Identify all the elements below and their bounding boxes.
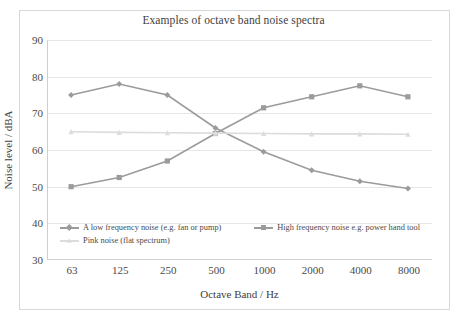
data-point-marker xyxy=(69,184,74,189)
data-point-marker xyxy=(357,178,363,184)
data-point-marker xyxy=(116,81,122,87)
legend-label-pink-noise: Pink noise (flat spectrum) xyxy=(83,236,170,245)
x-tick-label: 250 xyxy=(160,264,177,276)
y-tick-label: 30 xyxy=(32,254,43,266)
y-tick-label: 80 xyxy=(32,71,43,83)
data-point-marker xyxy=(309,94,314,99)
x-tick-label: 4000 xyxy=(350,264,372,276)
y-tick-label: 40 xyxy=(32,217,43,229)
x-tick-label: 1000 xyxy=(254,264,276,276)
data-point-marker xyxy=(309,167,315,173)
series-line xyxy=(71,132,408,135)
legend-line-marker-icon xyxy=(254,223,273,232)
x-tick-label: 8000 xyxy=(398,264,420,276)
chart-legend: A low frequency noise (e.g. fan or pump)… xyxy=(60,221,420,247)
legend-item-low-frequency[interactable]: A low frequency noise (e.g. fan or pump) xyxy=(60,223,254,232)
legend-item-pink-noise[interactable]: Pink noise (flat spectrum) xyxy=(60,236,260,245)
legend-row-2: Pink noise (flat spectrum) xyxy=(60,234,420,247)
legend-item-high-frequency[interactable]: High frequency noise e.g. power hand too… xyxy=(254,223,420,232)
x-tick-label: 500 xyxy=(208,264,225,276)
data-point-marker xyxy=(165,158,170,163)
series-3 xyxy=(68,129,410,137)
legend-line-marker-icon xyxy=(60,236,79,245)
x-tick-label: 63 xyxy=(67,264,78,276)
y-axis-title: Noise level / dBA xyxy=(2,110,14,189)
y-tick-label: 70 xyxy=(32,107,43,119)
data-point-marker xyxy=(405,94,410,99)
data-point-marker xyxy=(357,83,362,88)
legend-label-high-frequency: High frequency noise e.g. power hand too… xyxy=(277,223,420,232)
x-axis-title: Octave Band / Hz xyxy=(47,288,432,300)
y-tick-label: 90 xyxy=(32,34,43,46)
data-point-marker xyxy=(261,149,267,155)
x-tick-label: 2000 xyxy=(302,264,324,276)
y-tick-label: 60 xyxy=(32,144,43,156)
data-point-marker xyxy=(68,92,74,98)
data-point-marker xyxy=(405,186,411,192)
legend-label-low-frequency: A low frequency noise (e.g. fan or pump) xyxy=(83,223,221,232)
legend-line-marker-icon xyxy=(60,223,79,232)
data-point-marker xyxy=(117,175,122,180)
legend-row-1: A low frequency noise (e.g. fan or pump)… xyxy=(60,221,420,234)
chart-container: Examples of octave band noise spectra No… xyxy=(0,0,467,327)
chart-title: Examples of octave band noise spectra xyxy=(0,14,467,26)
y-tick-label: 50 xyxy=(32,181,43,193)
data-point-marker xyxy=(261,105,266,110)
x-tick-label: 125 xyxy=(112,264,129,276)
